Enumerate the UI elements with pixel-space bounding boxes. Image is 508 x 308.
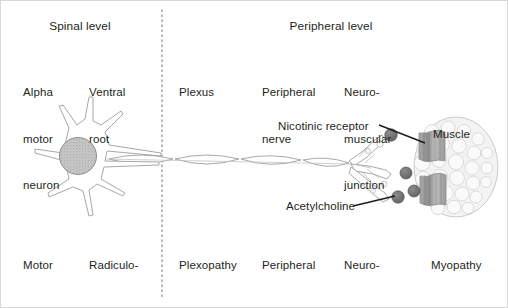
label-line: Motor xyxy=(23,258,63,274)
label-line: junction xyxy=(344,178,391,194)
diagram-figure: Spinal level Peripheral level Alpha moto… xyxy=(0,0,508,308)
label-peripheral-neuropathy: Peripheral neuropathy xyxy=(262,227,321,308)
label-line: Radiculo- xyxy=(89,258,138,274)
label-line: Neuro- xyxy=(344,85,391,101)
label-line: Myopathy xyxy=(431,258,482,274)
label-line: Alpha xyxy=(23,85,59,101)
myelinated-axon xyxy=(105,155,353,166)
header-spinal-level: Spinal level xyxy=(37,19,123,35)
label-muscle: Muscle xyxy=(433,96,470,174)
label-line: motor xyxy=(23,132,59,148)
label-line: Peripheral xyxy=(262,258,321,274)
label-line: Neuro- xyxy=(344,258,410,274)
label-plexopathy: Plexopathy xyxy=(179,227,237,305)
label-line: neuron xyxy=(23,178,59,194)
label-myopathy: Myopathy xyxy=(431,227,482,305)
label-line: Plexopathy xyxy=(179,258,237,274)
label-line: root xyxy=(89,132,126,148)
label-plexus: Plexus xyxy=(179,54,214,132)
label-line: Muscle xyxy=(433,127,470,143)
callout-nicotinic-receptor: Nicotinic receptor xyxy=(278,119,369,135)
label-line: muscular xyxy=(344,305,410,308)
callout-acetylcholine: Acetylcholine xyxy=(286,199,355,215)
label-line: neuropathy xyxy=(262,305,321,308)
header-peripheral-level: Peripheral level xyxy=(271,19,391,35)
label-line: Ventral xyxy=(89,85,126,101)
label-alpha-motor-neuron: Alpha motor neuron xyxy=(23,54,59,225)
label-ventral-root: Ventral root xyxy=(89,54,126,178)
label-line: pathy xyxy=(89,305,138,308)
label-motor-neuron-disease: Motor neuron disease xyxy=(23,227,63,308)
label-line: Plexus xyxy=(179,85,214,101)
label-line: neuron xyxy=(23,305,63,308)
label-neuromuscular-transmission-defect: Neuro- muscular transmission defect xyxy=(344,227,410,308)
label-peripheral-nerve: Peripheral nerve xyxy=(262,54,315,178)
label-line: Peripheral xyxy=(262,85,315,101)
label-radiculopathy: Radiculo- pathy xyxy=(89,227,138,308)
